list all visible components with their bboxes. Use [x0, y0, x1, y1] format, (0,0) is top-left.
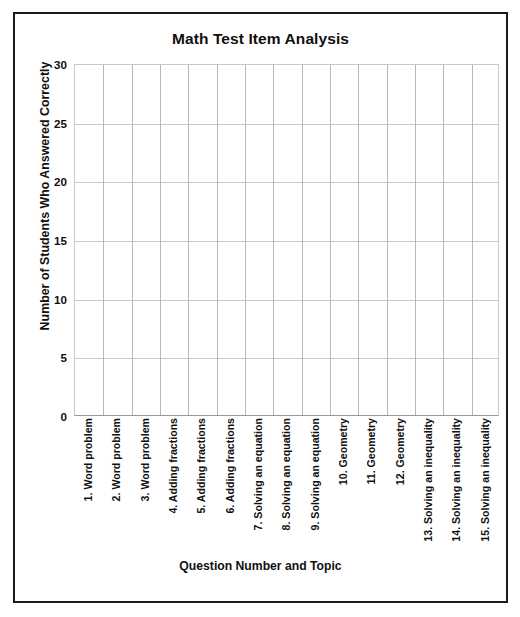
x-tick-label: 12. Geometry — [386, 418, 414, 548]
gridline-vertical — [273, 65, 274, 415]
x-tick-label: 3. Word problem — [131, 418, 159, 548]
chart-title: Math Test Item Analysis — [15, 30, 506, 48]
x-tick-label-text: 14. Solving an inequality — [451, 418, 462, 542]
x-tick-label: 13. Solving an inequality — [414, 418, 442, 548]
gridline-vertical — [387, 65, 388, 415]
x-tick-label: 1. Word problem — [74, 418, 102, 548]
gridline-vertical — [443, 65, 444, 415]
y-tick-label: 15 — [21, 234, 67, 247]
x-tick-label-text: 12. Geometry — [395, 418, 406, 485]
x-tick-label-text: 13. Solving an inequality — [423, 418, 434, 542]
x-tick-label: 11. Geometry — [357, 418, 385, 548]
gridline-vertical — [330, 65, 331, 415]
x-tick-label: 4. Adding fractions — [159, 418, 187, 548]
x-tick-label-text: 2. Word problem — [111, 418, 122, 501]
x-tick-label-text: 8. Solving an equation — [281, 418, 292, 530]
gridline-horizontal — [75, 241, 498, 242]
gridline-vertical — [160, 65, 161, 415]
gridline-vertical — [245, 65, 246, 415]
gridline-horizontal — [75, 182, 498, 183]
x-tick-label-text: 1. Word problem — [83, 418, 94, 501]
x-tick-label-text: 11. Geometry — [366, 418, 377, 485]
gridline-vertical — [103, 65, 104, 415]
x-tick-label-text: 9. Solving an equation — [310, 418, 321, 530]
y-tick-label: 5 — [21, 351, 67, 364]
gridline-vertical — [415, 65, 416, 415]
x-tick-label: 8. Solving an equation — [272, 418, 300, 548]
y-tick-label: 25 — [21, 116, 67, 129]
gridline-vertical — [217, 65, 218, 415]
gridline-vertical — [188, 65, 189, 415]
gridline-vertical — [472, 65, 473, 415]
y-tick-label: 0 — [21, 410, 67, 423]
y-tick-label: 10 — [21, 292, 67, 305]
x-tick-label: 14. Solving an inequality — [442, 418, 470, 548]
x-axis-title: Question Number and Topic — [15, 559, 506, 573]
gridline-vertical — [302, 65, 303, 415]
gridline-vertical — [358, 65, 359, 415]
x-tick-label: 10. Geometry — [329, 418, 357, 548]
x-tick-label: 5. Adding fractions — [187, 418, 215, 548]
x-tick-label-text: 4. Adding fractions — [168, 418, 179, 514]
y-tick-label: 30 — [21, 58, 67, 71]
x-tick-label: 6. Adding fractions — [216, 418, 244, 548]
x-tick-label: 9. Solving an equation — [301, 418, 329, 548]
x-tick-label-text: 7. Solving an equation — [253, 418, 264, 530]
x-tick-label-text: 10. Geometry — [338, 418, 349, 485]
x-tick-label-text: 3. Word problem — [140, 418, 151, 501]
gridline-vertical — [132, 65, 133, 415]
x-tick-label-text: 6. Adding fractions — [225, 418, 236, 514]
gridline-horizontal — [75, 300, 498, 301]
x-tick-label: 15. Solving an inequality — [471, 418, 499, 548]
x-tick-label-text: 15. Solving an inequality — [480, 418, 491, 542]
gridline-horizontal — [75, 124, 498, 125]
y-axis-ticks: 051015202530 — [15, 64, 67, 416]
x-tick-label: 2. Word problem — [102, 418, 130, 548]
x-tick-label-text: 5. Adding fractions — [196, 418, 207, 514]
chart-frame: Math Test Item Analysis Number of Studen… — [13, 12, 508, 603]
x-axis-ticks: 1. Word problem2. Word problem3. Word pr… — [74, 418, 499, 548]
plot-area — [74, 64, 499, 416]
x-tick-label: 7. Solving an equation — [244, 418, 272, 548]
gridline-horizontal — [75, 358, 498, 359]
y-tick-label: 20 — [21, 175, 67, 188]
